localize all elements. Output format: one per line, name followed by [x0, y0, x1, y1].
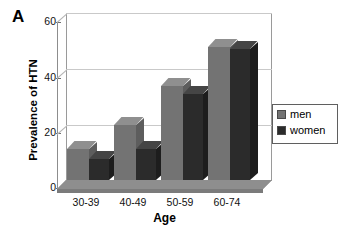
bar-side-face: [250, 42, 258, 180]
legend-label-women: women: [290, 125, 325, 136]
bar-men-30-39: [67, 149, 89, 180]
bar-front-face: [230, 49, 250, 180]
plot-area: [57, 13, 272, 193]
floor-front-edge: [57, 189, 263, 193]
plot-floor: [57, 180, 272, 194]
bar-front-face: [208, 47, 230, 180]
bar-men-40-49: [114, 125, 136, 180]
x-axis-title: Age: [57, 211, 272, 225]
y-axis-ticks: 60 40 20 0: [12, 0, 56, 231]
bar-front-face: [161, 86, 183, 180]
y-tick-label-40: 40: [34, 72, 56, 83]
legend-item-men: men: [277, 109, 311, 120]
bar-men-50-59: [161, 86, 183, 180]
bar-women-40-49: [136, 149, 156, 180]
legend-label-men: men: [290, 109, 311, 120]
x-tick-label-40-49: 40-49: [110, 197, 156, 208]
legend-item-women: women: [277, 125, 325, 136]
x-tick-label-50-59: 50-59: [157, 197, 203, 208]
legend: men women: [272, 104, 338, 144]
x-tick-label-30-39: 30-39: [63, 197, 109, 208]
bar-front-face: [136, 149, 156, 180]
legend-swatch-women: [277, 126, 286, 135]
bar-women-50-59: [183, 94, 203, 180]
legend-swatch-men: [277, 110, 286, 119]
y-tick-label-60: 60: [34, 16, 56, 27]
bar-front-face: [183, 94, 203, 180]
bar-women-30-39: [89, 159, 109, 180]
bar-men-60-74: [208, 47, 230, 180]
x-tick-label-60-74: 60-74: [204, 197, 250, 208]
figure-panel-a: A Prevalence of HTN 60 40 20 0: [0, 0, 347, 231]
bar-front-face: [89, 159, 109, 180]
bar-women-60-74: [230, 49, 250, 180]
y-axis-line: [57, 22, 58, 189]
gridline-60: [66, 13, 272, 14]
bar-front-face: [114, 125, 136, 180]
bar-front-face: [67, 149, 89, 180]
y-tick-label-0: 0: [34, 182, 56, 193]
y-tick-label-20: 20: [34, 127, 56, 138]
